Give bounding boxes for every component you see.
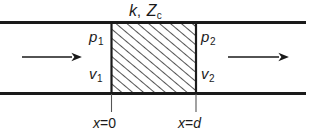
material-properties-label: k, Zc — [129, 3, 162, 21]
outlet-velocity-label: v2 — [201, 66, 215, 84]
left-boundary-value: 0 — [108, 115, 116, 131]
inlet-velocity-subscript: 1 — [97, 73, 103, 84]
right-boundary-label: x=d — [178, 116, 201, 130]
outlet-velocity-subscript: 2 — [209, 73, 215, 84]
impedance-symbol: Z — [147, 2, 157, 19]
outlet-pressure-subscript: 2 — [210, 36, 216, 47]
acoustic-duct-diagram: k, Zc p1 v1 p2 v2 x=0 x=d — [0, 0, 316, 140]
outlet-velocity-symbol: v — [201, 65, 209, 82]
right-boundary-value: d — [193, 115, 201, 131]
inlet-pressure-label: p1 — [89, 29, 104, 47]
left-boundary-equals: = — [100, 115, 108, 131]
inlet-pressure-symbol: p — [89, 28, 98, 45]
impedance-subscript: c — [156, 10, 161, 21]
left-boundary-label: x=0 — [93, 116, 116, 130]
diagram-canvas — [0, 0, 316, 140]
wavenumber-symbol: k — [129, 2, 137, 19]
hatched-layer-fill — [111, 22, 196, 93]
outlet-pressure-label: p2 — [201, 29, 216, 47]
right-boundary-equals: = — [185, 115, 193, 131]
right-boundary-variable: x — [178, 115, 185, 131]
inlet-velocity-symbol: v — [89, 65, 97, 82]
inlet-pressure-subscript: 1 — [98, 36, 104, 47]
left-boundary-variable: x — [93, 115, 100, 131]
outlet-pressure-symbol: p — [201, 28, 210, 45]
inlet-velocity-label: v1 — [89, 66, 103, 84]
